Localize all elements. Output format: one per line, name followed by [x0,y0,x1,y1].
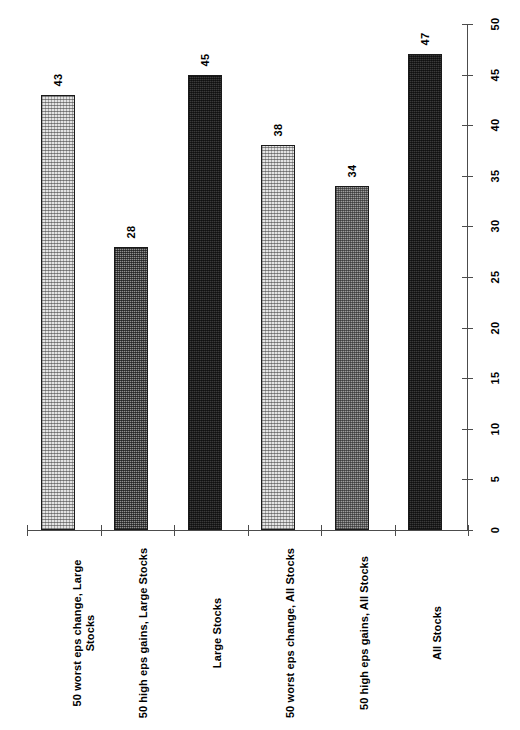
value-axis-tick [462,277,473,278]
bar-value-label: 47 [418,22,432,56]
value-axis-tick-label: 45 [488,58,502,92]
bar-value-label: 45 [198,43,212,77]
value-axis-tick-label: 20 [488,311,502,345]
bar [261,145,295,530]
category-label: 50 worst eps change, All Stocks [284,538,297,728]
category-axis-tick [321,525,322,536]
category-axis-tick [27,525,28,536]
value-axis-tick [462,328,473,329]
category-label: 50 worst eps change, Large Stocks [71,538,97,728]
value-axis-tick [462,125,473,126]
bar-value-label: 43 [51,63,65,97]
category-axis-tick [101,525,102,536]
bar [335,186,369,530]
value-axis-tick-label: 10 [488,412,502,446]
value-axis-tick-label: 50 [488,7,502,41]
bar-value-label: 34 [345,154,359,188]
category-axis-tick [174,525,175,536]
value-axis-tick [462,24,473,25]
value-axis-tick-label: 40 [488,108,502,142]
value-axis-tick [462,226,473,227]
value-axis-tick [462,429,473,430]
value-axis-tick [462,378,473,379]
category-label: 50 high eps gains, Large Stocks [137,538,150,728]
value-axis-tick [462,176,473,177]
value-axis-tick [462,75,473,76]
bar-chart: 05101520253035404550 432845383447 50 wor… [0,0,520,730]
bar [41,95,75,530]
plot-area: 05101520253035404550 432845383447 50 wor… [0,0,520,730]
category-axis-tick [248,525,249,536]
category-axis-tick [468,525,469,536]
value-axis-tick-label: 30 [488,209,502,243]
value-axis-tick-label: 15 [488,361,502,395]
bar-value-label: 38 [271,113,285,147]
value-axis-tick-label: 0 [488,513,502,547]
bar-value-label: 28 [124,215,138,249]
category-label: Large Stocks [211,538,224,728]
value-axis-tick-label: 35 [488,159,502,193]
category-label: 50 high eps gains, All Stocks [358,538,371,728]
bar [114,247,148,530]
value-axis-tick-label: 25 [488,260,502,294]
category-label: All Stocks [431,538,444,728]
category-axis-tick [395,525,396,536]
bar [408,54,442,530]
value-axis-tick-label: 5 [488,462,502,496]
value-axis-tick [462,479,473,480]
bar [188,75,222,530]
